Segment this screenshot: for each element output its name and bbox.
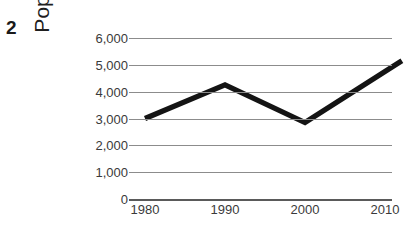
gridline-0 <box>137 199 392 201</box>
x-tick-label-1980: 1980 <box>113 203 177 216</box>
population-line-chart-figure: 2 Population 01,0002,0003,0004,0005,0006… <box>0 0 407 231</box>
y-tick-label-5000: 5,000 <box>72 58 128 71</box>
x-tick-label-2000: 2000 <box>273 203 337 216</box>
y-tick-label-4000: 4,000 <box>72 85 128 98</box>
y-axis-title: Population <box>28 0 54 64</box>
gridline-3000 <box>137 119 392 120</box>
y-tick-mark-2000 <box>129 145 137 146</box>
gridline-6000 <box>137 38 392 39</box>
x-tick-label-2010: 2010 <box>353 203 407 216</box>
y-tick-label-1000: 1,000 <box>72 166 128 179</box>
x-tick-label-1990: 1990 <box>193 203 257 216</box>
y-tick-mark-6000 <box>129 38 137 39</box>
x-axis-tick-label-group: 1980199020002010 <box>137 203 392 223</box>
y-tick-label-6000: 6,000 <box>72 32 128 45</box>
gridline-1000 <box>137 172 392 173</box>
y-tick-mark-4000 <box>129 92 137 93</box>
gridline-4000 <box>137 92 392 93</box>
y-axis-tick-label-group: 01,0002,0003,0004,0005,0006,000 <box>72 0 128 231</box>
y-tick-mark-1000 <box>129 172 137 173</box>
y-tick-mark-3000 <box>129 119 137 120</box>
plot-area <box>137 38 392 199</box>
gridline-5000 <box>137 65 392 66</box>
y-tick-mark-5000 <box>129 65 137 66</box>
y-tick-label-2000: 2,000 <box>72 139 128 152</box>
question-number: 2 <box>6 18 17 37</box>
y-tick-mark-0 <box>129 199 137 201</box>
y-tick-label-3000: 3,000 <box>72 112 128 125</box>
gridline-2000 <box>137 145 392 146</box>
